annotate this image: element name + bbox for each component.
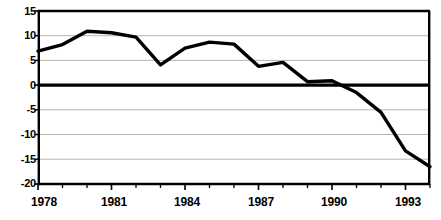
x-tick-label: 1981 xyxy=(101,196,127,208)
x-tick-label: 1984 xyxy=(174,196,200,208)
x-axis-tick-labels: 1978 1981 1984 1987 1990 1993 xyxy=(0,0,441,220)
x-tick-label: 1987 xyxy=(248,196,274,208)
x-tick-label: 1978 xyxy=(31,196,57,208)
x-tick-label: 1990 xyxy=(321,196,347,208)
chart-container: 15 10 5 0 -5 -10 -15 -20 1978 1981 1984 … xyxy=(0,0,441,220)
x-tick-label: 1993 xyxy=(395,196,421,208)
